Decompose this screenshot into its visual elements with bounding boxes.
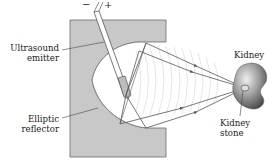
reflector-label-line1: Elliptic xyxy=(3,114,59,124)
kidney-stone-dot-icon xyxy=(241,85,249,91)
shockwave-rays-icon xyxy=(120,43,245,128)
wavefront-arcs-icon xyxy=(136,46,218,116)
elliptic-reflector-block-icon xyxy=(70,20,166,157)
emitter-minus-sign: − xyxy=(82,0,90,10)
lithotripsy-diagram: − + Ultrasound emitter Elliptic reflecto… xyxy=(0,0,280,164)
emitter-label-line1: Ultrasound xyxy=(3,43,59,53)
emitter-label-line2: emitter xyxy=(3,53,59,63)
diagram-canvas xyxy=(0,0,280,164)
stone-label-line1: Kidney xyxy=(220,118,250,128)
reflector-label-line2: reflector xyxy=(3,124,59,134)
kidney-shape-icon xyxy=(233,63,267,109)
kidney-label: Kidney xyxy=(234,50,264,60)
stone-label-line2: stone xyxy=(220,128,244,138)
emitter-plus-sign: + xyxy=(104,0,112,10)
